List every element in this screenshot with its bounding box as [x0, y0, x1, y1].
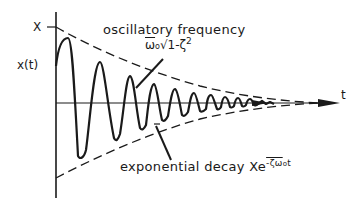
decay-exp-t: t [287, 158, 291, 168]
t-axis-arrow-icon [318, 99, 340, 107]
decay-formula-exponent: -ζωot [266, 158, 291, 168]
sqrt-term: √1-ζ [160, 38, 186, 52]
decay-formula-base: Xe [249, 159, 266, 174]
oscillatory-frequency-formula: ωo√1-ζ2 [145, 39, 192, 51]
squared-exponent: 2 [186, 36, 192, 46]
omega-symbol: ω [145, 38, 155, 52]
t-axis-label: t [341, 89, 346, 101]
decay-exp-zeta-omega: -ζω [266, 158, 283, 168]
exponential-decay-annotation: exponential decay Xe-ζωot [120, 160, 291, 173]
y-axis-label: x(t) [17, 59, 38, 71]
oscillatory-frequency-label: oscillatory frequency [103, 23, 245, 36]
amplitude-label: X [33, 21, 41, 33]
exponential-decay-label: exponential decay [120, 159, 245, 174]
response-curve [56, 38, 274, 158]
